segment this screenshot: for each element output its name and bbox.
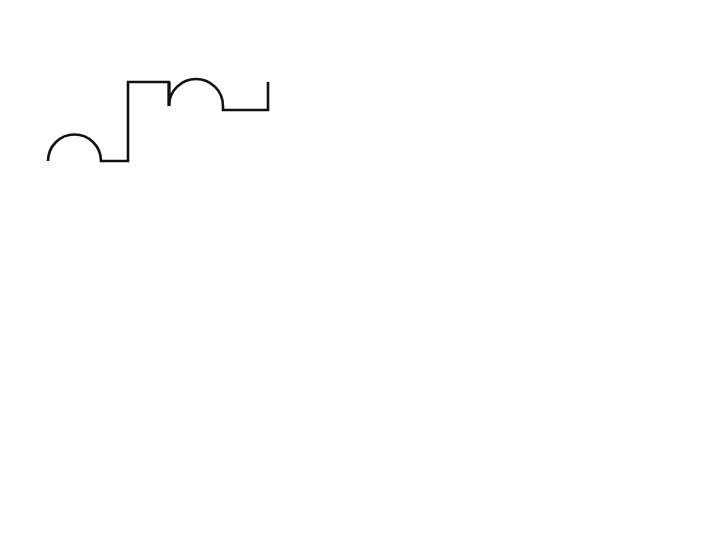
figure-1-shape <box>48 79 268 161</box>
analogy-puzzle <box>0 0 728 536</box>
